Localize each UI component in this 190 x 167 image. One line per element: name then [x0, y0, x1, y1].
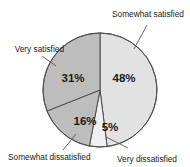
pie-label-very-dissatisfied: Very dissatisfied	[117, 154, 177, 164]
pie-value-very-dissatisfied: 5%	[102, 121, 119, 133]
pie-chart: 48% 5% 16% 31% Somewhat satisfied Very s…	[0, 0, 190, 167]
leader-line-somewhat-satisfied	[134, 25, 147, 49]
pie-value-very-satisfied: 31%	[61, 72, 84, 84]
pie-value-somewhat-satisfied: 48%	[112, 72, 135, 84]
pie-label-very-satisfied: Very satisfied	[15, 44, 65, 54]
pie-label-somewhat-dissatisfied: Somewhat dissatisfied	[8, 152, 91, 162]
pie-label-somewhat-satisfied: Somewhat satisfied	[112, 9, 184, 19]
pie-chart-canvas: 48% 5% 16% 31% Somewhat satisfied Very s…	[0, 0, 190, 167]
pie-value-somewhat-dissatisfied: 16%	[73, 115, 96, 127]
